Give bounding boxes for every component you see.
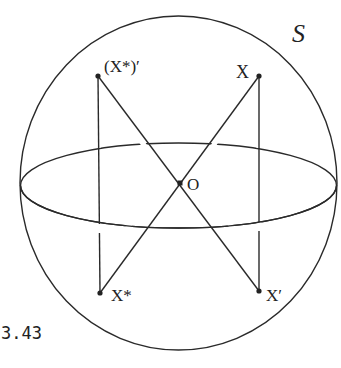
point-o [178, 181, 183, 186]
label-x: X [236, 62, 249, 82]
figure-caption: 3.43 [1, 323, 42, 343]
point-x-prime [256, 288, 261, 293]
label-sphere-s: S [292, 19, 305, 48]
label-x-star: X* [111, 286, 132, 305]
sphere-diagram: S X (X*)′ X* X′ O 3.43 [0, 0, 341, 368]
segment-x-star-prime-to-x-star [98, 76, 100, 293]
label-o: O [187, 175, 199, 194]
label-x-prime: X′ [266, 286, 282, 305]
point-x-star-prime [95, 73, 100, 78]
point-x [256, 73, 261, 78]
point-x-star [97, 290, 102, 295]
label-x-star-prime: (X*)′ [104, 57, 140, 76]
